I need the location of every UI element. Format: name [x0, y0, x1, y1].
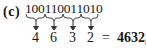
- brace-group-3: [63, 14, 81, 21]
- octal-digit: 6: [50, 30, 57, 46]
- result-value: 4632: [117, 30, 145, 45]
- brace-group-1: [26, 14, 45, 21]
- brace-group-4: [81, 14, 98, 21]
- brace-group-2: [45, 14, 63, 21]
- equals-sign: =: [102, 30, 110, 46]
- octal-result: 46328: [117, 30, 146, 47]
- octal-digit: 3: [69, 30, 76, 46]
- base-subscript: 8: [145, 37, 146, 47]
- octal-digit: 4: [32, 30, 39, 46]
- octal-digit: 2: [87, 30, 94, 46]
